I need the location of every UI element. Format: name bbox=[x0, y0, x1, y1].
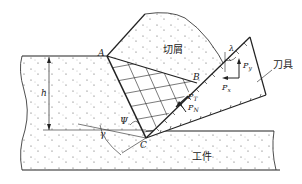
point-c-label: C bbox=[140, 140, 147, 150]
depth-label: h bbox=[41, 88, 47, 98]
point-b-label: B bbox=[192, 72, 200, 82]
shear-angle-label: Ψ bbox=[120, 116, 129, 126]
rake-angle-label: γ bbox=[100, 129, 106, 139]
chip-label: 切屑 bbox=[163, 44, 183, 55]
lambda-label: λ bbox=[228, 44, 234, 53]
tool-label: 刀具 bbox=[273, 59, 293, 70]
point-a-label: A bbox=[97, 48, 105, 58]
workpiece-label: 工件 bbox=[192, 151, 212, 162]
cutting-diagram: A B C 切屑 刀具 工件 h Ψ γ λ Py Px PT PN bbox=[0, 0, 302, 184]
